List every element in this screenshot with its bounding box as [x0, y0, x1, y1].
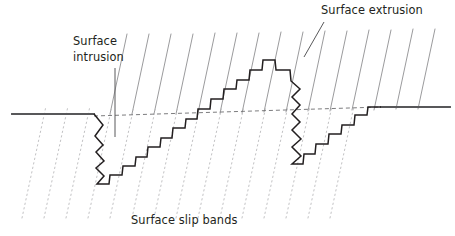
datum-dashed-line	[94, 107, 381, 116]
slip-band-solid	[264, 32, 281, 112]
fatigue-surface-diagram: Surface intrusion Surface extrusion Surf…	[0, 0, 455, 236]
fatigue-crack-profile	[94, 60, 381, 184]
surface-extrusion-label: Surface extrusion	[321, 3, 423, 17]
slip-band-solid	[396, 29, 413, 109]
slip-band-dotted	[88, 106, 112, 218]
slip-band-solid	[418, 29, 435, 109]
slip-bands-solid-group	[110, 29, 435, 114]
surface-intrusion-label-line1: Surface	[73, 34, 117, 48]
slip-band-solid	[176, 34, 193, 114]
slip-band-dotted	[198, 106, 222, 218]
slip-band-dotted	[242, 106, 266, 218]
slip-band-dotted	[154, 106, 178, 218]
slip-band-dotted	[264, 106, 288, 218]
slip-band-solid	[220, 33, 237, 113]
slip-band-dotted	[176, 106, 200, 218]
slip-band-solid	[374, 30, 391, 110]
surface-intrusion-label-line2: intrusion	[73, 50, 124, 64]
slip-band-dotted	[22, 106, 46, 218]
slip-band-solid	[154, 34, 171, 114]
slip-band-solid	[132, 34, 149, 114]
slip-band-dotted	[44, 106, 68, 218]
slip-band-dotted	[220, 106, 244, 218]
diagram-canvas: Surface intrusion Surface extrusion Surf…	[0, 0, 455, 236]
slip-band-solid	[308, 31, 325, 111]
surface-slip-bands-label: Surface slip bands	[131, 213, 238, 227]
slip-band-dotted	[286, 106, 310, 218]
slip-band-dotted	[66, 106, 90, 218]
slip-band-dotted	[110, 106, 134, 218]
slip-band-dotted	[308, 106, 332, 218]
slip-band-solid	[352, 30, 369, 110]
slip-band-solid	[242, 33, 259, 113]
slip-band-solid	[330, 31, 347, 111]
slip-band-solid	[198, 33, 215, 113]
slip-bands-dotted-group	[22, 106, 354, 218]
slip-band-dotted	[330, 106, 354, 218]
